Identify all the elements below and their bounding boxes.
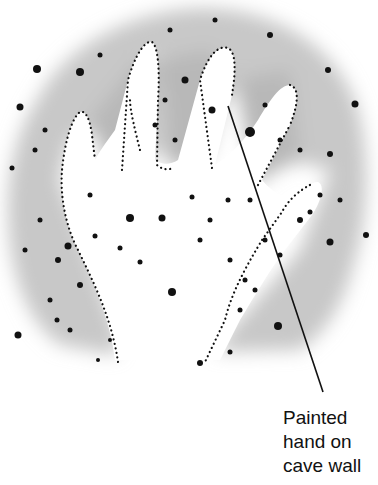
callout-line-1: Painted bbox=[283, 406, 378, 430]
callout-label: Painted hand on cave wall bbox=[283, 406, 378, 478]
callout-line-3: cave wall bbox=[283, 454, 378, 478]
callout-line-2: hand on bbox=[283, 430, 378, 454]
